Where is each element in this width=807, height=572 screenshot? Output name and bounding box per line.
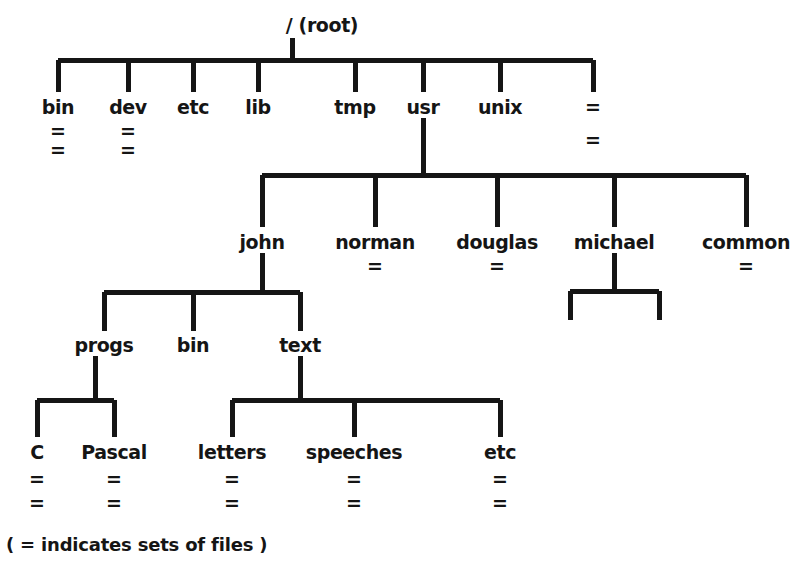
- fileset-mark-douglas: =: [489, 257, 505, 276]
- node-douglas[interactable]: douglas: [456, 233, 538, 252]
- node-etc[interactable]: etc: [177, 98, 209, 117]
- fileset-mark-pascal-2: =: [106, 494, 122, 513]
- node-dev[interactable]: dev: [109, 98, 147, 117]
- fileset-mark-pascal-1: =: [106, 470, 122, 489]
- fileset-mark-dev-2: =: [120, 141, 136, 160]
- fileset-mark-c-2: =: [29, 494, 45, 513]
- node-unix[interactable]: unix: [478, 98, 522, 117]
- fileset-mark-rootfiles-2: =: [585, 131, 601, 150]
- node-speeches[interactable]: speeches: [306, 443, 402, 462]
- node-usr[interactable]: usr: [406, 98, 439, 117]
- filesystem-tree-diagram: / (root) bin = = dev = = etc lib tmp usr…: [0, 0, 807, 572]
- fileset-mark-speeches-1: =: [346, 470, 362, 489]
- node-progs[interactable]: progs: [75, 336, 134, 355]
- fileset-mark-etc-2: =: [492, 494, 508, 513]
- legend-caption: ( = indicates sets of files ): [6, 536, 267, 554]
- node-root[interactable]: / (root): [286, 16, 358, 35]
- node-john[interactable]: john: [239, 233, 284, 252]
- node-letters[interactable]: letters: [198, 443, 266, 462]
- node-common[interactable]: common: [702, 233, 790, 252]
- node-bin[interactable]: bin: [42, 98, 74, 117]
- node-etc-text[interactable]: etc: [484, 443, 516, 462]
- node-norman[interactable]: norman: [335, 233, 415, 252]
- fileset-mark-speeches-2: =: [346, 494, 362, 513]
- node-c[interactable]: C: [30, 443, 44, 462]
- fileset-mark-letters-2: =: [224, 494, 240, 513]
- fileset-mark-common: =: [738, 257, 754, 276]
- fileset-mark-rootfiles-1: =: [585, 98, 601, 117]
- node-lib[interactable]: lib: [245, 98, 270, 117]
- fileset-mark-bin-2: =: [50, 141, 66, 160]
- node-pascal[interactable]: Pascal: [81, 443, 147, 462]
- node-text[interactable]: text: [279, 336, 321, 355]
- node-tmp[interactable]: tmp: [334, 98, 375, 117]
- fileset-mark-norman: =: [367, 257, 383, 276]
- fileset-mark-c-1: =: [29, 470, 45, 489]
- fileset-mark-letters-1: =: [224, 470, 240, 489]
- fileset-mark-etc-1: =: [492, 470, 508, 489]
- node-bin-john[interactable]: bin: [177, 336, 209, 355]
- node-michael[interactable]: michael: [574, 233, 655, 252]
